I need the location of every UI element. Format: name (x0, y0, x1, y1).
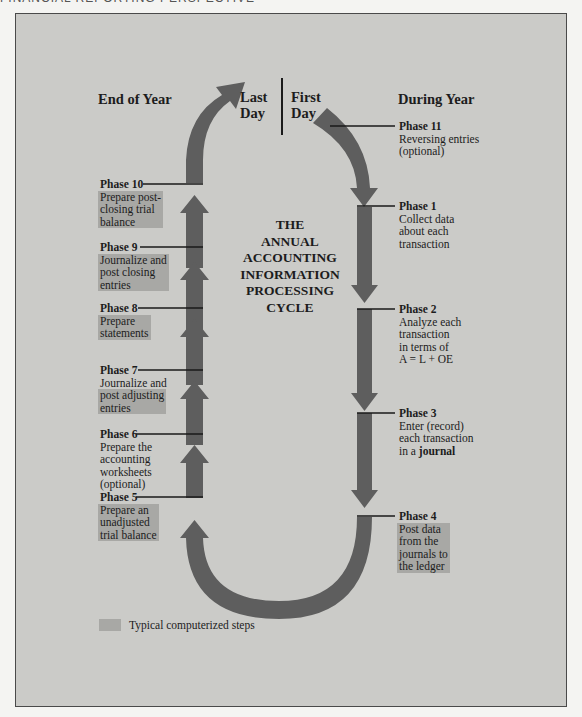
title-line: CYCLE (222, 300, 358, 317)
phase-line: Journalize and (100, 377, 167, 389)
phase-line: Prepare an (100, 504, 149, 516)
down-arrow-p3 (351, 413, 378, 508)
phase-title: Phase 6 (100, 428, 152, 441)
phase-line: Enter (record) (399, 420, 464, 432)
title-line: ACCOUNTING (222, 250, 358, 267)
phase-line: Prepare the (100, 441, 152, 453)
phase-line: about each (399, 225, 449, 237)
legend-swatch-icon (99, 619, 121, 631)
phase-line: in a (399, 445, 416, 457)
title-line: THE (222, 217, 358, 234)
phase-line: trial balance (100, 529, 157, 541)
phase-2: Phase 2 Analyze each transaction in term… (399, 303, 461, 366)
phase-6: Phase 6 Prepare the accounting worksheet… (100, 428, 152, 491)
phase-line: balance (100, 216, 135, 228)
phase-line: Reversing entries (399, 133, 479, 145)
down-arrow-p2 (351, 309, 378, 411)
phase-line: from the (399, 535, 438, 547)
phase-line: accounting (100, 453, 150, 465)
up-arrow-p6 (180, 445, 209, 498)
phase-line: (optional) (100, 478, 145, 490)
phase-7: Phase 7 Journalize and post adjusting en… (100, 364, 167, 414)
phase-4: Phase 4 Post data from the journals to t… (399, 510, 450, 573)
phase-line: post closing (100, 266, 155, 278)
label-last-day-word: Day (240, 105, 267, 121)
phase-title: Phase 10 (100, 178, 163, 191)
phase-8: Phase 8 Prepare statements (100, 302, 151, 340)
phase-line: Prepare post- (100, 191, 161, 203)
label-first-day: First Day (291, 89, 321, 121)
heading-during-year: During Year (398, 91, 474, 108)
phase-description-computerized: Post data from the journals to the ledge… (397, 523, 450, 573)
curved-arrow-top-right (313, 108, 378, 207)
phase-line: unadjusted (100, 516, 150, 528)
phase-10: Phase 10 Prepare post- closing trial bal… (100, 178, 163, 228)
phase-line: transaction (399, 328, 449, 340)
phase-title: Phase 4 (399, 510, 450, 523)
phase-line: entries (100, 402, 131, 414)
phase-line: journals to (399, 548, 448, 560)
legend: Typical computerized steps (99, 619, 255, 631)
phase-description-computerized: Prepare post- closing trial balance (98, 191, 163, 229)
curved-arrow-top-left (186, 82, 245, 183)
phase-line: Post data (399, 523, 441, 535)
phase-line: Collect data (399, 213, 454, 225)
phase-description-computerized: post adjusting entries (98, 389, 166, 414)
phase-5: Phase 5 Prepare an unadjusted trial bala… (100, 491, 159, 541)
phase-title: Phase 11 (399, 120, 479, 133)
phase-11: Phase 11 Reversing entries (optional) (399, 120, 479, 158)
phase-line: in terms of (399, 341, 449, 353)
phase-line: transaction (399, 238, 449, 250)
diagram-title: THE ANNUAL ACCOUNTING INFORMATION PROCES… (222, 217, 358, 316)
phase-line: Journalize and (100, 254, 167, 266)
phase-line: Prepare (100, 315, 135, 327)
label-last-day: Last Day (240, 89, 267, 121)
title-line: PROCESSING (222, 283, 358, 300)
phase-9: Phase 9 Journalize and post closing entr… (100, 241, 169, 291)
bold-term-journal: journal (419, 445, 455, 457)
phase-description-computerized: Journalize and post closing entries (98, 254, 169, 292)
heading-end-of-year: End of Year (98, 91, 172, 108)
phase-title: Phase 8 (100, 302, 151, 315)
phase-line: each transaction (399, 432, 473, 444)
title-line: ANNUAL (222, 234, 358, 251)
phase-title: Phase 3 (399, 407, 473, 420)
phase-line: statements (100, 327, 149, 339)
phase-line: entries (100, 279, 131, 291)
phase-line: (optional) (399, 145, 444, 157)
phase-title: Phase 9 (100, 241, 169, 254)
u-arrow-bottom (180, 517, 372, 619)
phase-title: Phase 7 (100, 364, 167, 377)
phase-3: Phase 3 Enter (record) each transaction … (399, 407, 473, 457)
label-first-day-word: Day (291, 105, 321, 121)
phase-description-computerized: Prepare statements (98, 315, 151, 340)
legend-label: Typical computerized steps (129, 619, 255, 631)
phase-description-computerized: Prepare an unadjusted trial balance (98, 504, 159, 542)
up-arrow-p7 (180, 381, 209, 445)
phase-title: Phase 2 (399, 303, 461, 316)
phase-title: Phase 5 (100, 491, 159, 504)
phase-line: Analyze each (399, 316, 461, 328)
up-arrow-p8 (180, 319, 209, 385)
label-first: First (291, 89, 321, 105)
phase-line: A = L + OE (399, 353, 453, 365)
label-last: Last (240, 89, 267, 105)
up-arrow-p10 (180, 195, 209, 268)
phase-line: the ledger (399, 560, 445, 572)
phase-line: worksheets (100, 466, 152, 478)
phase-title: Phase 1 (399, 200, 454, 213)
phase-1: Phase 1 Collect data about each transact… (399, 200, 454, 250)
title-line: INFORMATION (222, 267, 358, 284)
phase-line: closing trial (100, 203, 155, 215)
phase-line: post adjusting (100, 389, 164, 401)
